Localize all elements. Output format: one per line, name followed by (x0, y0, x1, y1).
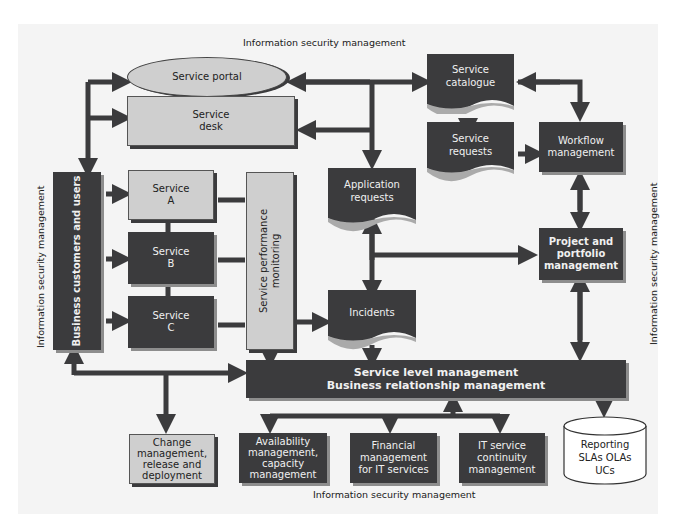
left-security-label: Information security management (35, 185, 46, 348)
slm-label-2: Business relationship management (327, 379, 546, 392)
financial-label-2: management (360, 452, 427, 464)
application-requests-label-2: requests (328, 191, 416, 204)
project-and-portfolio-management: Project and portfolio management (539, 228, 623, 280)
business-customers-label: Business customers and users (71, 176, 83, 347)
spm-label-1: Service performance (258, 209, 270, 313)
service-requests: Service requests (427, 122, 514, 178)
service-portal-label: Service portal (172, 71, 242, 83)
business-customers-and-users: Business customers and users (53, 172, 101, 350)
service-c: Service C (128, 296, 214, 348)
service-catalogue-label-2: catalogue (427, 76, 514, 89)
availability-label-4: management (250, 469, 317, 480)
incidents: Incidents (328, 290, 416, 346)
service-desk-label-2: desk (199, 121, 223, 133)
financial-management: Financial management for IT services (350, 433, 437, 483)
service-b: Service B (128, 232, 214, 284)
itsc-label-1: IT service (478, 440, 526, 452)
financial-label-3: for IT services (358, 464, 428, 476)
financial-label-1: Financial (372, 440, 416, 452)
itsc-label-3: management (469, 464, 536, 476)
service-a-label-1: Service (153, 183, 190, 195)
service-performance-monitoring: Service performance monitoring (246, 172, 294, 350)
top-security-label: Information security management (243, 37, 406, 48)
change-management: Change management, release and deploymen… (129, 434, 215, 484)
right-security-label: Information security management (648, 182, 659, 345)
reporting-label-3: UCs (563, 464, 647, 477)
reporting-database: Reporting SLAs OLAs UCs (563, 416, 647, 486)
service-portal: Service portal (127, 57, 287, 97)
spm-label-2: monitoring (270, 234, 282, 289)
change-label-1: Change (153, 437, 191, 448)
project-label-2: portfolio (557, 248, 606, 260)
service-c-label-2: C (168, 322, 175, 334)
reporting-label-1: Reporting (563, 438, 647, 451)
application-requests-label-1: Application (328, 178, 416, 191)
service-catalogue: Service catalogue (427, 54, 514, 110)
availability-management: Availability management, capacity manage… (239, 433, 327, 483)
service-c-label-1: Service (153, 310, 190, 322)
service-b-label-1: Service (153, 246, 190, 258)
service-desk-label-1: Service (193, 109, 230, 121)
availability-label-3: capacity (262, 458, 304, 469)
service-level-management: Service level management Business relati… (246, 360, 626, 398)
service-a: Service A (128, 170, 214, 220)
change-label-2: management, (137, 448, 207, 459)
project-label-1: Project and (549, 236, 614, 248)
workflow-label-2: management (548, 147, 615, 159)
change-label-4: deployment (142, 470, 202, 481)
service-requests-label-2: requests (427, 145, 514, 158)
service-a-label-2: A (168, 195, 175, 207)
workflow-label-1: Workflow (558, 135, 604, 147)
service-catalogue-label-1: Service (427, 63, 514, 76)
bottom-security-label: Information security management (313, 489, 476, 500)
application-requests: Application requests (328, 168, 416, 228)
service-desk: Service desk (127, 96, 295, 146)
itsc-label-2: continuity (477, 452, 527, 464)
availability-label-2: management, (248, 447, 318, 458)
service-requests-label-1: Service (427, 132, 514, 145)
service-b-label-2: B (168, 258, 175, 270)
reporting-label-2: SLAs OLAs (563, 451, 647, 464)
workflow-management: Workflow management (539, 122, 623, 172)
availability-label-1: Availability (256, 436, 311, 447)
incidents-label: Incidents (328, 306, 416, 319)
slm-label-1: Service level management (354, 366, 519, 379)
project-label-3: management (544, 260, 618, 272)
it-service-continuity-management: IT service continuity management (459, 433, 545, 483)
change-label-3: release and (143, 459, 201, 470)
